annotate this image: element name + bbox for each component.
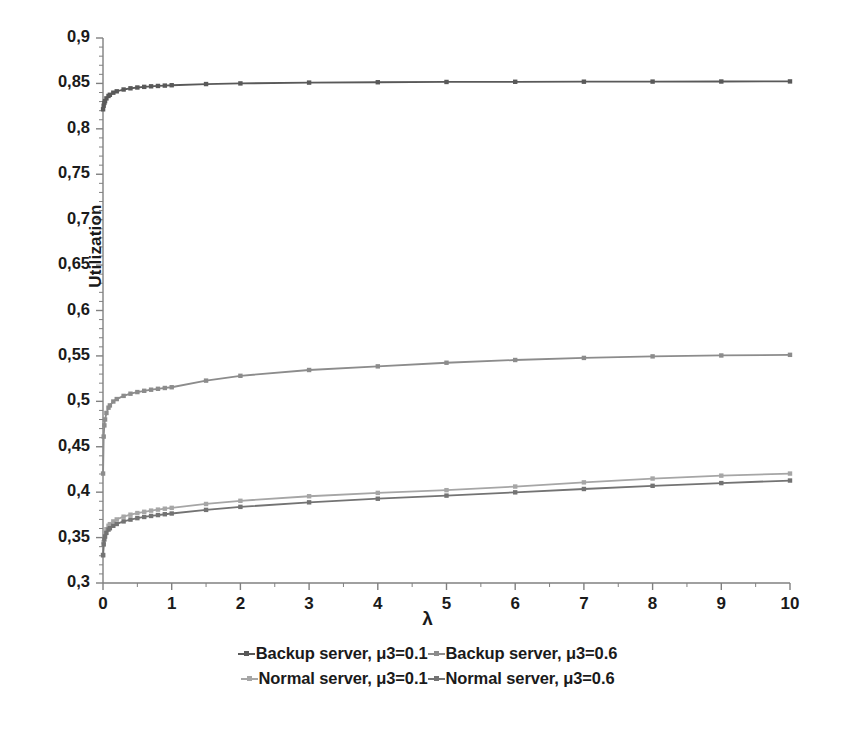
series-marker bbox=[149, 508, 153, 512]
x-axis-tick-label: 10 bbox=[770, 594, 810, 614]
legend-item[interactable]: Backup server, μ3=0.6 bbox=[428, 644, 618, 663]
series-marker bbox=[650, 484, 654, 488]
series-marker bbox=[788, 79, 792, 83]
x-axis-tick-label: 0 bbox=[83, 594, 123, 614]
series-marker bbox=[108, 403, 112, 407]
series-marker bbox=[582, 487, 586, 491]
x-axis-tick-label: 5 bbox=[427, 594, 467, 614]
series-marker bbox=[204, 378, 208, 382]
series-marker bbox=[115, 517, 119, 521]
series-marker bbox=[142, 389, 146, 393]
series-marker bbox=[307, 368, 311, 372]
series-marker bbox=[307, 494, 311, 498]
series-marker bbox=[204, 82, 208, 86]
series-marker bbox=[121, 519, 125, 523]
series-marker bbox=[719, 473, 723, 477]
series-marker bbox=[121, 514, 125, 518]
utilization-line-chart: Utilization λ Backup server, μ3=0.1Backu… bbox=[0, 0, 855, 735]
legend-label: Backup server, μ3=0.6 bbox=[446, 644, 618, 663]
series-marker bbox=[142, 510, 146, 514]
series-marker bbox=[513, 484, 517, 488]
series-marker bbox=[121, 394, 125, 398]
x-axis-tick-label: 9 bbox=[701, 594, 741, 614]
series-marker bbox=[128, 517, 132, 521]
series-marker bbox=[135, 511, 139, 515]
legend-row: Backup server, μ3=0.1Backup server, μ3=0… bbox=[238, 644, 618, 663]
y-axis-tick-label: 0,7 bbox=[30, 209, 90, 228]
series-marker bbox=[142, 515, 146, 519]
x-axis-tick-label: 1 bbox=[152, 594, 192, 614]
y-axis-tick-label: 0,45 bbox=[30, 436, 90, 455]
y-axis-tick-label: 0,9 bbox=[30, 27, 90, 46]
series-marker bbox=[128, 392, 132, 396]
legend-marker-icon bbox=[428, 674, 445, 684]
series-marker bbox=[170, 83, 174, 87]
legend-item[interactable]: Normal server, μ3=0.1 bbox=[241, 669, 428, 688]
series-marker bbox=[156, 513, 160, 517]
legend-marker-icon bbox=[428, 649, 445, 659]
series-marker bbox=[101, 542, 105, 546]
series-marker bbox=[376, 497, 380, 501]
series-marker bbox=[156, 507, 160, 511]
series-marker bbox=[101, 471, 105, 475]
y-axis-tick-label: 0,65 bbox=[30, 254, 90, 273]
series-marker bbox=[238, 374, 242, 378]
series-marker bbox=[582, 356, 586, 360]
legend-label: Normal server, μ3=0.1 bbox=[259, 669, 428, 688]
x-axis-tick-label: 8 bbox=[633, 594, 673, 614]
series-marker bbox=[238, 499, 242, 503]
legend-item[interactable]: Normal server, μ3=0.6 bbox=[428, 669, 615, 688]
series-marker bbox=[101, 434, 105, 438]
y-axis-tick-label: 0,8 bbox=[30, 118, 90, 137]
series-marker bbox=[103, 417, 107, 421]
series-marker bbox=[582, 480, 586, 484]
series-marker bbox=[135, 85, 139, 89]
series-marker bbox=[204, 502, 208, 506]
series-marker bbox=[788, 471, 792, 475]
series-marker bbox=[102, 423, 106, 427]
series-marker bbox=[650, 79, 654, 83]
series-marker bbox=[513, 80, 517, 84]
series-marker bbox=[444, 493, 448, 497]
series-marker bbox=[163, 83, 167, 87]
series-marker bbox=[115, 89, 119, 93]
series-marker bbox=[156, 84, 160, 88]
series-marker bbox=[170, 511, 174, 515]
series-marker bbox=[149, 514, 153, 518]
series-marker bbox=[149, 388, 153, 392]
x-axis-tick-label: 6 bbox=[495, 594, 535, 614]
y-axis-tick-label: 0,5 bbox=[30, 390, 90, 409]
series-marker bbox=[376, 364, 380, 368]
series-marker bbox=[238, 505, 242, 509]
series-marker bbox=[156, 387, 160, 391]
series-marker bbox=[788, 478, 792, 482]
series-marker bbox=[788, 353, 792, 357]
y-axis-tick-label: 0,85 bbox=[30, 72, 90, 91]
series-marker bbox=[135, 516, 139, 520]
series-marker bbox=[582, 79, 586, 83]
series-marker bbox=[163, 507, 167, 511]
series-marker bbox=[163, 386, 167, 390]
x-axis-tick-label: 7 bbox=[564, 594, 604, 614]
series-marker bbox=[719, 79, 723, 83]
series-marker bbox=[650, 476, 654, 480]
series-marker bbox=[128, 512, 132, 516]
series-marker bbox=[238, 81, 242, 85]
series-marker bbox=[376, 80, 380, 84]
series-marker bbox=[513, 358, 517, 362]
chart-legend: Backup server, μ3=0.1Backup server, μ3=0… bbox=[0, 644, 855, 688]
series-marker bbox=[376, 491, 380, 495]
series-marker bbox=[115, 397, 119, 401]
y-axis-tick-label: 0,35 bbox=[30, 527, 90, 546]
series-marker bbox=[719, 481, 723, 485]
legend-marker-icon bbox=[241, 674, 258, 684]
series-marker bbox=[170, 385, 174, 389]
legend-item[interactable]: Backup server, μ3=0.1 bbox=[238, 644, 428, 663]
y-axis-tick-label: 0,4 bbox=[30, 481, 90, 500]
y-axis-tick-label: 0,3 bbox=[30, 572, 90, 591]
series-marker bbox=[121, 87, 125, 91]
x-axis-tick-label: 3 bbox=[289, 594, 329, 614]
y-axis-tick-label: 0,55 bbox=[30, 345, 90, 364]
series-marker bbox=[128, 86, 132, 90]
series-marker bbox=[135, 390, 139, 394]
